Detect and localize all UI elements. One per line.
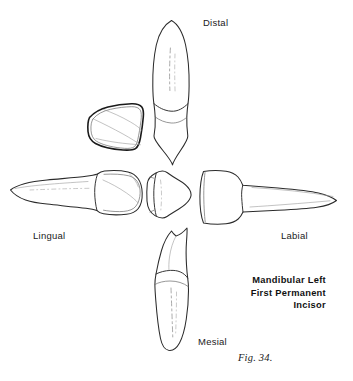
crown-detail-outline: [88, 104, 144, 151]
distal-view-tooth: [153, 21, 189, 166]
dental-figure: Distal Lingual Labial Mesial Mandibular …: [0, 0, 353, 381]
orientation-label-distal: Distal: [203, 17, 228, 28]
orientation-label-mesial: Mesial: [198, 336, 227, 347]
orientation-label-labial: Labial: [281, 230, 308, 241]
caption-line-3: Incisor: [196, 299, 326, 312]
lingual-view-outline: [11, 171, 143, 215]
figure-number: Fig. 34.: [238, 352, 273, 363]
labial-view-tooth: [200, 171, 337, 225]
labial-view-outline: [200, 171, 337, 225]
caption-line-2: First Permanent: [196, 287, 326, 300]
caption-line-1: Mandibular Left: [196, 274, 326, 287]
figure-caption-block: Mandibular Left First Permanent Incisor: [196, 274, 326, 312]
mesial-view-tooth: [155, 228, 189, 350]
lingual-view-tooth: [11, 171, 143, 215]
distal-view-outline: [153, 21, 189, 166]
incisal-view-tooth: [147, 171, 191, 218]
orientation-label-lingual: Lingual: [33, 230, 65, 241]
tooth-illustration-plate: [0, 0, 353, 381]
crown-detail-view-tooth: [88, 104, 144, 151]
